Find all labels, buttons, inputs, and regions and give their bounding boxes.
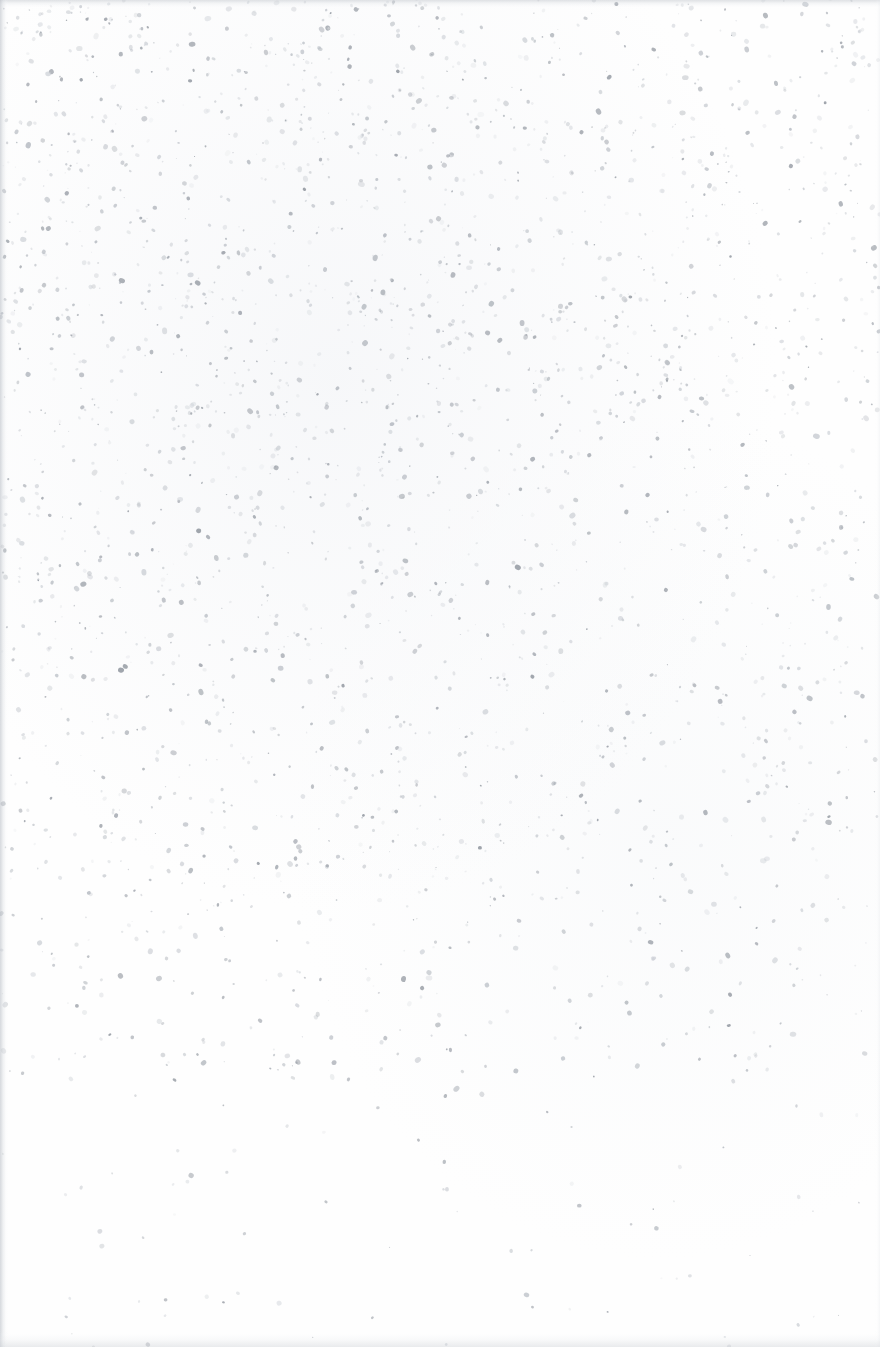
scanned-page: Blank scanned document page with scanner… [0,0,880,1347]
page-content-area: Blank scanned document page with scanner… [0,0,880,1347]
